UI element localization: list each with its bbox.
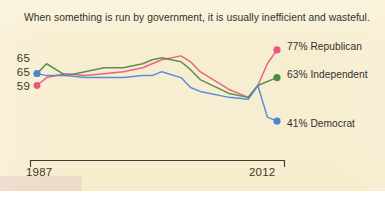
start-marker-democrat [34, 70, 41, 77]
chart-figure: When something is run by government, it … [0, 0, 385, 199]
x-axis [31, 161, 285, 168]
series-lines [37, 50, 277, 121]
x-axis-bracket [31, 161, 285, 168]
series-line-independent [37, 58, 277, 98]
chart-plot-area [0, 0, 385, 199]
start-marker-republican [34, 82, 41, 89]
end-marker-democrat [273, 117, 280, 124]
end-marker-independent [273, 74, 280, 81]
end-marker-republican [273, 46, 280, 53]
